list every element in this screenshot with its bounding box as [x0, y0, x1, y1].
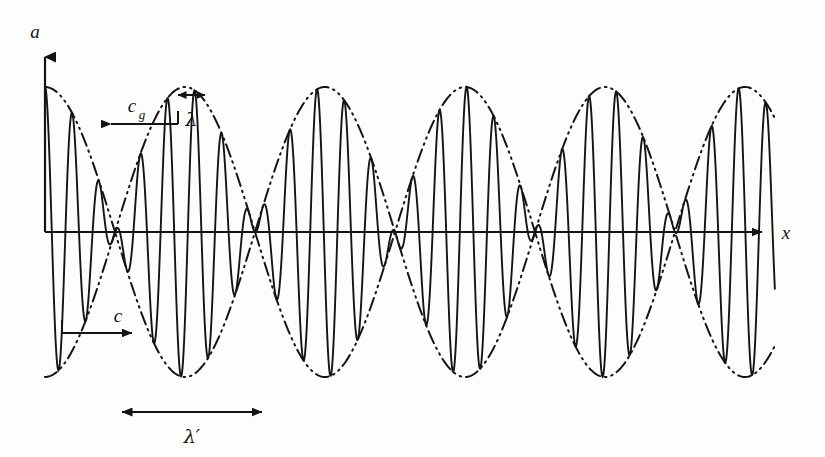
lambda-label: λ — [184, 108, 197, 130]
y-axis-label: a — [30, 21, 40, 42]
x-axis-label: x — [781, 222, 791, 243]
group-wavelength-annotation: λ′ — [122, 412, 262, 447]
envelope-upper — [45, 87, 774, 232]
figure-canvas: a x λ λ′ c c g — [0, 0, 825, 457]
c-velocity-label: c — [114, 305, 123, 326]
axes-group: a x — [30, 21, 791, 243]
envelope-lower — [45, 232, 774, 377]
cg-velocity-subscript: g — [139, 107, 146, 122]
lambda-prime-label: λ′ — [183, 425, 201, 447]
wave-packet-figure: a x λ λ′ c c g — [0, 0, 825, 457]
phase-velocity-annotation: c — [62, 305, 132, 333]
carrier-wavelength-annotation: λ — [178, 95, 205, 130]
cg-velocity-label: c — [128, 95, 137, 116]
